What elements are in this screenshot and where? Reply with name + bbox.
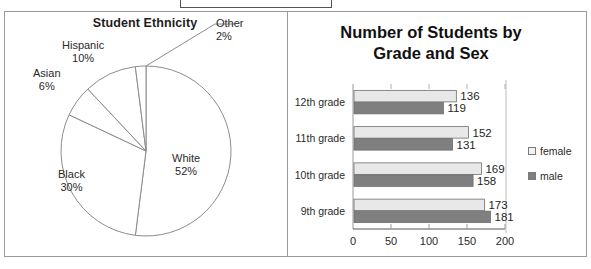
pie-label-black: Black 30% xyxy=(58,168,85,194)
bar-value-female-12th-grade: 136 xyxy=(460,90,479,102)
pie-chart-svg xyxy=(0,0,288,258)
bar-value-male-12th-grade: 119 xyxy=(447,102,465,114)
bar-female-10th-grade xyxy=(354,163,481,175)
category-label-12th-grade: 12th grade xyxy=(295,96,345,108)
legend-swatch-male-icon xyxy=(528,172,536,180)
bar-value-female-11th-grade: 152 xyxy=(473,127,492,139)
bar-chart-legend: female male xyxy=(528,145,572,195)
pie-label-other-name: Other xyxy=(216,17,244,29)
pie-label-hispanic: Hispanic 10% xyxy=(62,39,104,65)
x-tick-label-50: 50 xyxy=(385,235,397,247)
pie-label-white-pct: 52% xyxy=(172,165,200,178)
pie-label-white: White 52% xyxy=(172,152,200,178)
pie-label-other-pct: 2% xyxy=(216,30,244,43)
legend-item-male: male xyxy=(528,170,572,182)
pie-label-black-pct: 30% xyxy=(58,181,85,194)
bar-male-11th-grade xyxy=(354,139,453,151)
x-tick-label-100: 100 xyxy=(420,235,438,247)
category-label-9th-grade: 9th grade xyxy=(301,205,346,217)
category-label-10th-grade: 10th grade xyxy=(295,169,345,181)
bar-female-9th-grade xyxy=(354,199,484,211)
legend-swatch-female-icon xyxy=(528,147,536,155)
pie-label-asian: Asian 6% xyxy=(33,67,61,93)
legend-label-male: male xyxy=(540,170,563,182)
bar-value-female-10th-grade: 169 xyxy=(485,163,504,175)
pie-label-hispanic-name: Hispanic xyxy=(62,39,104,51)
pie-label-black-name: Black xyxy=(58,168,85,180)
pie-label-white-name: White xyxy=(172,152,200,164)
pie-slice-group xyxy=(61,66,231,236)
bar-value-male-11th-grade: 131 xyxy=(457,139,476,151)
bar-male-12th-grade xyxy=(354,102,443,114)
bar-female-12th-grade xyxy=(354,90,456,102)
category-label-11th-grade: 11th grade xyxy=(296,132,346,144)
pie-chart xyxy=(0,0,288,258)
screenshot-root: Student Ethnicity Other 2% Hispanic 10% … xyxy=(0,0,591,269)
legend-item-female: female xyxy=(528,145,572,157)
pie-label-hispanic-pct: 10% xyxy=(62,52,104,65)
legend-label-female: female xyxy=(540,145,572,157)
pie-label-asian-pct: 6% xyxy=(33,80,61,93)
bar-value-male-10th-grade: 158 xyxy=(477,175,496,187)
bar-value-male-9th-grade: 181 xyxy=(495,211,514,223)
bar-plot-group: 12th grade13611911th grade15213110th gra… xyxy=(295,80,514,247)
x-tick-label-200: 200 xyxy=(496,235,514,247)
bar-chart-title: Number of Students by Grade and Sex xyxy=(300,22,562,64)
x-tick-label-150: 150 xyxy=(458,235,476,247)
bar-value-female-9th-grade: 173 xyxy=(488,199,507,211)
bar-male-9th-grade xyxy=(354,211,491,223)
bar-male-10th-grade xyxy=(354,175,473,187)
x-tick-label-0: 0 xyxy=(350,235,356,247)
bar-chart-title-line1: Number of Students by xyxy=(300,22,562,43)
pie-slice-white xyxy=(135,66,231,236)
bar-chart-title-line2: Grade and Sex xyxy=(300,43,562,64)
bar-female-11th-grade xyxy=(354,127,469,139)
pie-label-asian-name: Asian xyxy=(33,67,61,79)
pie-label-other: Other 2% xyxy=(216,17,244,43)
